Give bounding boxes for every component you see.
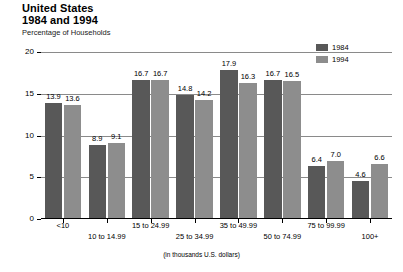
legend-swatch-icon-1984 [316,44,328,51]
bar-value-label-1994-35 to 49.99: 16.3 [236,73,260,81]
bar-group: 8.99.1 [89,52,126,219]
y-tick-mark-0 [37,219,41,220]
bar-value-label-1984-35 to 49.99: 17.9 [217,60,241,68]
chart-container: United States 1984 and 1994 Percentage o… [0,0,403,272]
bar-1994-15 to 24.99[interactable] [151,80,169,219]
bar-1984-<10[interactable] [45,103,63,219]
x-axis-label-15 to 24.99: 15 to 24.99 [121,221,181,230]
bar-value-label-1994-75 to 99.99: 7.0 [324,151,348,159]
bar-group: 13.913.6 [45,52,82,219]
x-axis-labels: <1010 to 14.9915 to 24.9925 to 34.9935 t… [41,221,392,251]
bar-1994-75 to 99.99[interactable] [327,161,345,219]
y-tick-label-20: 20 [25,48,34,56]
chart-header: United States 1984 and 1994 Percentage o… [22,2,322,38]
bar-group: 17.916.3 [220,52,257,219]
bar-1994-50 to 74.99[interactable] [283,81,301,219]
bar-1984-10 to 14.99[interactable] [89,145,107,219]
bar-group: 4.66.6 [352,52,389,219]
bar-1994-10 to 14.99[interactable] [108,143,126,219]
bar-group: 6.47.0 [308,52,345,219]
bars-layer: 13.913.68.99.116.716.714.814.217.916.316… [41,52,392,219]
x-axis-label-75 to 99.99: 75 to 99.99 [296,221,356,230]
x-axis-line [41,218,392,219]
bar-value-label-1994-<10: 13.6 [61,95,85,103]
bar-1984-75 to 99.99[interactable] [308,166,326,219]
plot-area: 05101520 13.913.68.99.116.716.714.814.21… [41,52,392,219]
bar-1994-35 to 49.99[interactable] [239,83,257,219]
x-axis-label-10 to 14.99: 10 to 14.99 [77,232,137,241]
y-tick-label-10: 10 [25,132,34,140]
bar-value-label-1994-10 to 14.99: 9.1 [105,133,129,141]
bar-group: 16.716.7 [132,52,169,219]
x-axis-label-<10: <10 [33,221,93,230]
x-axis-label-50 to 74.99: 50 to 74.99 [252,232,312,241]
bar-value-label-1994-100+: 6.6 [368,154,392,162]
legend-item-1984: 1984 [316,43,349,52]
chart-subtitle: Percentage of Households [22,28,322,38]
y-tick-label-5: 5 [30,173,34,181]
bar-1984-25 to 34.99[interactable] [176,95,194,219]
bar-1994-<10[interactable] [64,105,82,219]
page-title-line-2: 1984 and 1994 [22,14,322,26]
bar-group: 16.716.5 [264,52,301,219]
x-axis-label-100+: 100+ [340,232,400,241]
bar-group: 14.814.2 [176,52,213,219]
bar-value-label-1994-25 to 34.99: 14.2 [192,90,216,98]
bar-1984-35 to 49.99[interactable] [220,70,238,219]
x-axis-label-35 to 49.99: 35 to 49.99 [208,221,268,230]
x-axis-caption: (in thousands U.S. dollars) [0,251,403,259]
bar-value-label-1994-50 to 74.99: 16.5 [280,71,304,79]
y-tick-label-15: 15 [25,90,34,98]
page-title-line-1: United States [22,2,322,14]
bar-1994-25 to 34.99[interactable] [195,100,213,219]
bar-value-label-1994-15 to 24.99: 16.7 [148,70,172,78]
x-axis-label-25 to 34.99: 25 to 34.99 [165,232,225,241]
bar-value-label-1984-100+: 4.6 [349,171,373,179]
legend-label-1984: 1984 [332,44,349,52]
bar-1984-50 to 74.99[interactable] [264,80,282,219]
bar-1984-100+[interactable] [352,181,370,219]
bar-1994-100+[interactable] [371,164,389,219]
bar-1984-15 to 24.99[interactable] [132,80,150,219]
